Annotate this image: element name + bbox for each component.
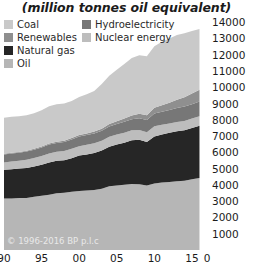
y-axis-tick-label: 14000 [212,17,245,28]
legend-item-label: Renewables [17,32,77,43]
y-axis-tick-label: 12000 [212,49,245,60]
x-axis-tick-label: 90 [0,252,11,264]
x-axis-tick-label: 95 [35,252,48,264]
copyright-notice: © 1996-2016 BP p.l.c [7,236,99,246]
legend-swatch-icon [4,46,13,55]
y-axis-tick-label: 13000 [212,33,245,44]
legend-swatch-icon [4,59,13,68]
chart-root: (million tonnes oil equivalent) 10002000… [0,0,253,267]
y-axis-tick-label: 1000 [212,228,239,239]
x-axis-tick-label: 05 [110,252,123,264]
x-axis-tick-label: 00 [72,252,85,264]
y-axis-tick-label: 4000 [212,179,239,190]
legend-item-oil[interactable]: Oil [4,57,77,70]
legend-item-nuclear-energy[interactable]: Nuclear energy [82,31,174,44]
x-axis-tick-label: 10 [148,252,161,264]
y-axis-tick-label: 6000 [212,147,239,158]
legend-item-natural-gas[interactable]: Natural gas [4,44,77,57]
y-axis-tick-label: 11000 [212,65,245,76]
y-axis-tick-label: 5000 [212,163,239,174]
legend-swatch-icon [82,20,91,29]
legend-swatch-icon [82,33,91,42]
legend-column-right: HydroelectricityNuclear energy [82,18,174,44]
legend-item-coal[interactable]: Coal [4,18,77,31]
y-axis: 1000200030004000500060007000800090001000… [208,14,253,250]
y-axis-tick-label: 7000 [212,131,239,142]
legend-item-label: Oil [17,58,30,69]
y-axis-tick-label: 3000 [212,196,239,207]
y-axis-tick-label: 10000 [212,82,245,93]
x-axis-tick-label: 15 [185,252,198,264]
legend-swatch-icon [4,33,13,42]
y-axis-tick-label: 8000 [212,114,239,125]
legend-item-label: Natural gas [17,45,75,56]
legend-item-renewables[interactable]: Renewables [4,31,77,44]
x-axis-tick-label: 0 [204,252,211,264]
legend-item-label: Hydroelectricity [95,19,174,30]
y-axis-tick-label: 9000 [212,98,239,109]
chart-legend: CoalRenewablesNatural gasOil Hydroelectr… [4,18,204,70]
legend-item-label: Coal [17,19,39,30]
legend-swatch-icon [4,20,13,29]
x-axis: 9095000510150 [0,250,253,267]
legend-item-hydroelectricity[interactable]: Hydroelectricity [82,18,174,31]
y-axis-tick-label: 2000 [212,212,239,223]
legend-item-label: Nuclear energy [95,32,172,43]
legend-column-left: CoalRenewablesNatural gasOil [4,18,77,70]
